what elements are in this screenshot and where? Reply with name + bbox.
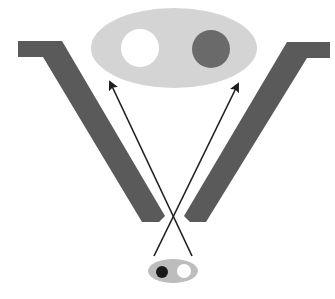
dark-circle	[192, 30, 230, 68]
crossed-pathway-diagram	[0, 0, 335, 299]
black-dot	[156, 266, 168, 278]
white-circle	[121, 29, 159, 67]
small-oval-group	[148, 259, 198, 283]
white-dot	[177, 264, 191, 278]
large-oval-group	[91, 8, 257, 88]
large-oval	[91, 8, 257, 88]
